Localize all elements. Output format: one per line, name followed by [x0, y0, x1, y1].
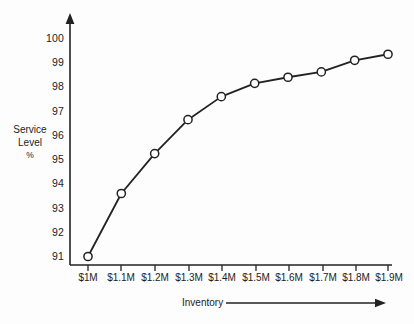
x-tick-label: $1.8M — [342, 272, 369, 284]
data-point-marker — [117, 189, 125, 197]
y-axis-title-line-2: Level — [2, 137, 58, 150]
y-axis-title-line-3: % — [2, 149, 58, 162]
x-axis-title: Inventory — [182, 297, 223, 309]
data-point-marker — [317, 68, 325, 76]
data-point-marker — [384, 50, 392, 58]
chart-axes — [66, 13, 392, 265]
data-point-marker — [217, 93, 225, 101]
y-tick-label: 100 — [34, 33, 64, 44]
x-tick-label: $1.9M — [375, 272, 402, 284]
y-tick-label: 99 — [34, 57, 64, 68]
y-tick-label: 94 — [34, 178, 64, 189]
x-tick-label: $1.4M — [208, 272, 235, 284]
x-tick-label: $1.3M — [175, 272, 202, 284]
y-tick-label: 92 — [34, 227, 64, 238]
x-tick-label: $1.2M — [141, 272, 168, 284]
x-tick-label: $1.5M — [242, 272, 269, 284]
y-axis-title-line-1: Service — [2, 124, 58, 137]
x-tick-label: $1M — [78, 272, 97, 284]
data-point-marker — [84, 252, 92, 260]
data-point-marker — [351, 56, 359, 64]
y-tick-label: 97 — [34, 106, 64, 117]
data-point-marker — [151, 149, 159, 157]
y-tick-label: 98 — [34, 81, 64, 92]
data-point-marker — [284, 73, 292, 81]
x-axis-tick-labels: $1M $1.1M $1.2M $1.3M $1.4M $1.5M $1.6M … — [0, 272, 414, 288]
data-point-marker — [184, 116, 192, 124]
series-line-path — [88, 54, 388, 256]
y-axis-title: Service Level % — [2, 124, 58, 162]
x-tick-label: $1.7M — [309, 272, 336, 284]
service-level-inventory-chart: 100 99 98 97 96 95 94 93 92 91 Service L… — [0, 0, 414, 324]
x-tick-label: $1.6M — [275, 272, 302, 284]
data-series-service-level — [84, 50, 392, 260]
y-tick-label: 93 — [34, 203, 64, 214]
series-data-markers — [84, 50, 392, 260]
y-tick-label: 91 — [34, 251, 64, 262]
data-point-marker — [251, 79, 259, 87]
x-axis-ticks — [88, 265, 388, 271]
x-axis-title-arrow-icon — [226, 299, 386, 307]
x-tick-label: $1.1M — [107, 272, 134, 284]
y-axis-arrow-icon — [66, 13, 75, 24]
